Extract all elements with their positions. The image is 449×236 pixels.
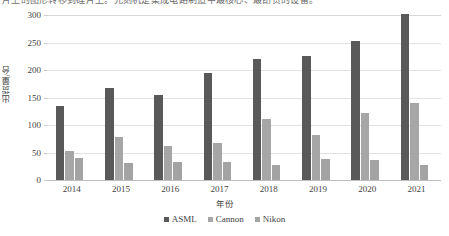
- legend-item-cannon[interactable]: Cannon: [208, 214, 244, 224]
- bar-group: [96, 15, 145, 180]
- x-axis-tick-label: 2019: [293, 185, 342, 194]
- y-axis-tick-label: 300: [15, 11, 41, 20]
- bar-cannon-2019: [312, 135, 321, 180]
- bar-cannon-2017: [213, 143, 222, 180]
- bar-nikon-2014: [75, 158, 84, 180]
- bar-cannon-2014: [65, 151, 74, 180]
- bar-cannon-2021: [410, 103, 419, 180]
- legend-swatch-icon: [208, 217, 213, 222]
- x-axis-tick-label: 2021: [392, 185, 441, 194]
- y-axis-tick-label: 250: [15, 39, 41, 48]
- bar-group: [343, 15, 392, 180]
- bar-nikon-2021: [420, 165, 429, 180]
- x-axis-tick-label: 2014: [47, 185, 96, 194]
- bar-nikon-2020: [370, 160, 379, 180]
- bar-group: [293, 15, 342, 180]
- bar-cannon-2020: [361, 113, 370, 180]
- bar-group: [47, 15, 96, 180]
- bar-asml-2018: [253, 59, 262, 180]
- bar-asml-2021: [401, 14, 410, 180]
- bar-nikon-2017: [223, 162, 232, 180]
- bar-asml-2016: [154, 95, 163, 180]
- bar-group: [392, 15, 441, 180]
- bar-group: [146, 15, 195, 180]
- x-axis-tick-label: 2018: [244, 185, 293, 194]
- y-axis-tick-label: 200: [15, 66, 41, 75]
- legend-label: ASML: [172, 214, 197, 224]
- chart-figure: 片上的图形转移到硅片上。光刻机是集成电路制造中最核心、最昂贵的设备。 出货量/台…: [0, 0, 449, 236]
- legend-item-asml[interactable]: ASML: [164, 214, 197, 224]
- x-axis-tick-label: 2017: [195, 185, 244, 194]
- bar-nikon-2015: [124, 163, 133, 180]
- legend-label: Nikon: [263, 214, 286, 224]
- bar-asml-2014: [56, 106, 65, 180]
- legend-label: Cannon: [216, 214, 244, 224]
- chart-legend: ASMLCannonNikon: [0, 214, 449, 224]
- y-axis-tick-label: 50: [15, 149, 41, 158]
- y-axis-tick-label: 0: [15, 176, 41, 185]
- y-axis-tick-label: 150: [15, 94, 41, 103]
- bar-asml-2017: [204, 73, 213, 180]
- bar-nikon-2018: [272, 165, 281, 180]
- legend-swatch-icon: [255, 217, 260, 222]
- bar-asml-2020: [351, 41, 360, 180]
- clipped-caption-text: 片上的图形转移到硅片上。光刻机是集成电路制造中最核心、最昂贵的设备。: [0, 0, 449, 9]
- bar-asml-2019: [302, 56, 311, 180]
- bar-group: [244, 15, 293, 180]
- bar-cannon-2016: [164, 146, 173, 180]
- plot-area: [47, 15, 441, 181]
- legend-item-nikon[interactable]: Nikon: [255, 214, 286, 224]
- y-axis-tick-label: 100: [15, 121, 41, 130]
- bar-cannon-2018: [262, 119, 271, 180]
- x-axis-tick-label: 2020: [343, 185, 392, 194]
- bar-asml-2015: [105, 88, 114, 180]
- x-axis-tick-label: 2015: [96, 185, 145, 194]
- x-axis-label: 年份: [0, 199, 449, 209]
- x-axis-tick-label: 2016: [146, 185, 195, 194]
- bar-nikon-2019: [321, 159, 330, 180]
- bar-group: [195, 15, 244, 180]
- clipped-caption-label: 片上的图形转移到硅片上。光刻机是集成电路制造中最核心、最昂贵的设备。: [2, 0, 318, 5]
- bar-nikon-2016: [173, 162, 182, 180]
- legend-swatch-icon: [164, 217, 169, 222]
- y-axis-label: 出货量/台: [3, 65, 15, 103]
- bar-chart: 出货量/台 050100150200250300 201420152016201…: [0, 9, 449, 236]
- bar-cannon-2015: [115, 137, 124, 180]
